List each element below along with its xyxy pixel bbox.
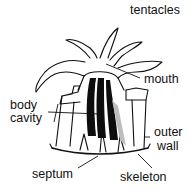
outer-wall-left	[56, 86, 80, 146]
label-outer-wall-line2: wall	[157, 140, 179, 153]
polyp-illustration	[0, 0, 194, 194]
label-mouth: mouth	[144, 73, 179, 86]
label-outer-wall-line1: outer	[154, 126, 183, 139]
column-right-upper	[118, 78, 124, 90]
tentacle-mid-left	[66, 39, 97, 58]
tentacle-left	[36, 60, 85, 92]
pharynx	[87, 78, 118, 140]
label-tentacles: tentacles	[130, 4, 180, 17]
leader-skeleton	[138, 154, 152, 168]
label-skeleton: skeleton	[120, 171, 167, 184]
outer-wall-right	[126, 88, 148, 148]
leader-septum	[78, 156, 98, 168]
label-body-cavity-line2: cavity	[10, 112, 42, 125]
oral-disc	[84, 72, 118, 78]
label-septum: septum	[32, 168, 73, 181]
coral-polyp-diagram: tentacles mouth body cavity outer wall s…	[0, 0, 194, 194]
